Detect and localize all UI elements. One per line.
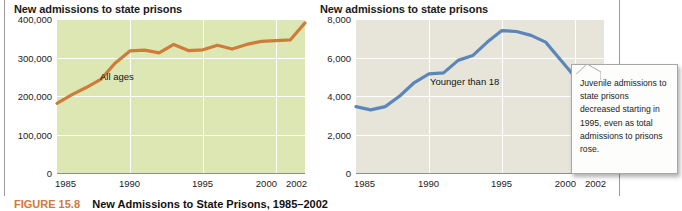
y-axis-tick-label: 6,000 [327,52,351,63]
x-axis-tick-label: 1985 [55,178,76,189]
series-line-younger-than-18 [356,19,604,173]
x-axis-tick-label: 2002 [585,178,606,189]
callout-text: Juvenile admissions to state prisons dec… [580,77,671,156]
y-axis-tick-label: 0 [346,168,351,179]
x-axis-tick-label: 1985 [354,178,375,189]
y-axis-tick-label: 2,000 [327,129,351,140]
y-axis-tick-label: 0 [47,168,52,179]
figure-caption-number: FIGURE 15.8 [14,198,80,210]
y-axis-tick-label: 8,000 [327,14,351,25]
x-axis-line [57,173,305,174]
x-axis-tick-label: 2000 [256,178,277,189]
series-annotation-younger-than-18: Younger than 18 [430,76,499,87]
figure-frame-left-rule [4,0,5,196]
y-axis-tick-label: 100,000 [18,129,52,140]
figure-container: New admissions to state prisons 0100,000… [0,0,682,211]
series-line-all-ages [57,19,305,173]
x-axis-tick-label: 1990 [119,178,140,189]
callout-box: Juvenile admissions to state prisons dec… [571,64,678,174]
x-axis-line [356,173,604,174]
figure-caption: FIGURE 15.8 New Admissions to State Pris… [14,198,614,210]
y-axis-tick-label: 4,000 [327,91,351,102]
callout-fold-icon [571,64,601,80]
figure-caption-title: New Admissions to State Prisons, 1985–20… [92,198,328,210]
y-axis-tick-label: 200,000 [18,91,52,102]
y-axis-tick-label: 400,000 [18,14,52,25]
plot-area-all-ages [57,19,305,173]
x-axis-tick-label: 1995 [491,178,512,189]
x-axis-tick-label: 1995 [192,178,213,189]
x-axis-tick-label: 2000 [555,178,576,189]
series-annotation-all-ages: All ages [100,71,134,82]
x-axis-tick-label: 2002 [286,178,307,189]
x-axis-tick-label: 1990 [418,178,439,189]
y-axis-tick-label: 300,000 [18,52,52,63]
plot-area-younger-than-18 [356,19,604,173]
